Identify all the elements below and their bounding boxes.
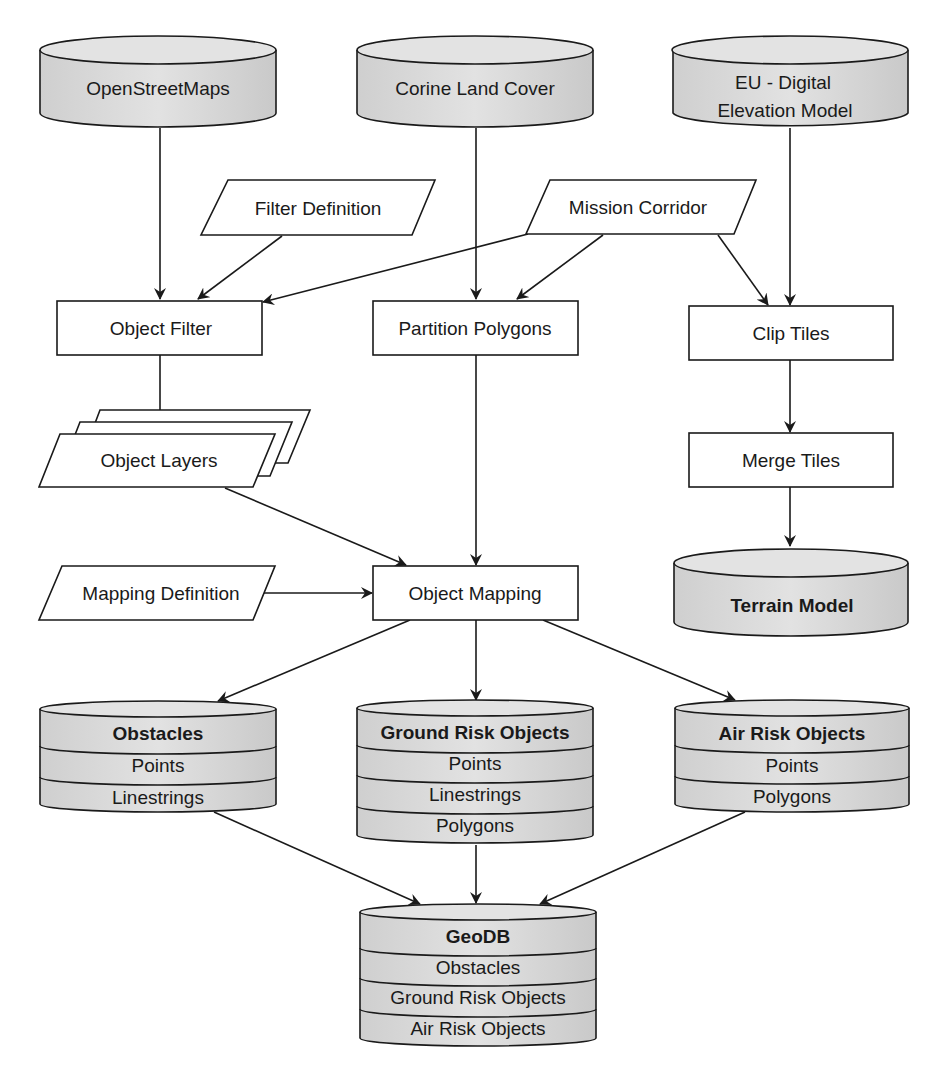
edge-mission-objectfilter [263,234,528,302]
input-mission-corridor: Mission Corridor [526,180,756,234]
source-label-line1: EU - Digital [735,72,831,93]
store-row: Points [449,753,502,774]
store-row: Polygons [753,786,831,807]
store-row: Linestrings [429,784,521,805]
process-partition-polygons: Partition Polygons [373,301,578,355]
edge-layers-mapping [225,488,406,565]
store-row: Polygons [436,815,514,836]
source-label: OpenStreetMaps [86,78,230,99]
store-air-risk-objects: Air Risk Objects Points Polygons [675,700,909,812]
store-label: Terrain Model [730,595,853,616]
edge-mission-partition [517,235,603,299]
store-obstacles: Obstacles Points Linestrings [40,701,276,812]
edge-mission-cliptiles [718,235,768,305]
flowchart-canvas: OpenStreetMaps Corine Land Cover EU - Di… [0,0,938,1077]
input-object-layers: Object Layers [39,410,310,487]
process-label: Clip Tiles [752,323,829,344]
process-label: Object Mapping [408,583,541,604]
store-row: Points [132,755,185,776]
source-eu-dem: EU - Digital Elevation Model [672,36,908,126]
process-clip-tiles: Clip Tiles [689,306,893,360]
source-corine-land-cover: Corine Land Cover [357,36,593,127]
edge-filterdef-objectfilter [198,236,282,299]
input-label: Mission Corridor [569,197,708,218]
process-object-filter: Object Filter [57,301,262,355]
process-label: Merge Tiles [742,450,840,471]
input-filter-definition: Filter Definition [201,180,435,235]
store-ground-risk-objects: Ground Risk Objects Points Linestrings P… [357,700,593,843]
store-row: Linestrings [112,787,204,808]
source-openstreetmaps: OpenStreetMaps [40,36,276,127]
store-title: GeoDB [446,926,510,947]
source-label-line2: Elevation Model [717,100,852,121]
store-row: Ground Risk Objects [390,987,565,1008]
store-title: Obstacles [113,723,204,744]
input-mapping-definition: Mapping Definition [39,566,275,620]
input-label: Object Layers [100,450,217,471]
store-row: Points [766,755,819,776]
store-title: Air Risk Objects [719,723,866,744]
store-geodb: GeoDB Obstacles Ground Risk Objects Air … [360,904,596,1046]
input-label: Filter Definition [255,198,382,219]
process-object-mapping: Object Mapping [373,566,578,620]
input-label: Mapping Definition [82,583,239,604]
store-title: Ground Risk Objects [381,722,570,743]
store-terrain-model: Terrain Model [674,549,908,636]
edge-mapping-obstacles [218,620,410,701]
store-row: Air Risk Objects [410,1018,545,1039]
process-merge-tiles: Merge Tiles [689,433,893,487]
process-label: Partition Polygons [398,318,551,339]
process-label: Object Filter [110,318,213,339]
source-label: Corine Land Cover [395,78,555,99]
store-row: Obstacles [436,957,520,978]
